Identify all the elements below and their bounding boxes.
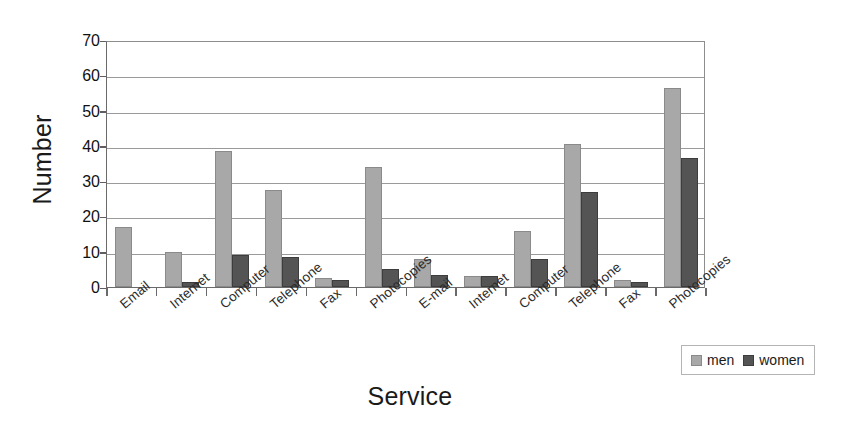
- bar-men: [564, 144, 581, 287]
- x-axis-tick-mark: [406, 288, 408, 296]
- legend-item-women: women: [743, 352, 804, 368]
- x-axis-tick-mark: [156, 288, 158, 296]
- bar-men: [664, 88, 681, 287]
- gridline: [107, 77, 704, 78]
- x-axis-tick-mark: [206, 288, 208, 296]
- bar-men: [115, 227, 132, 287]
- x-axis-tick-mark: [356, 288, 358, 296]
- legend-swatch-women-icon: [743, 355, 754, 366]
- legend-label-men: men: [707, 352, 734, 368]
- x-axis-tick-mark: [705, 288, 707, 296]
- legend-item-men: men: [691, 352, 734, 368]
- gridline: [107, 254, 704, 255]
- x-axis-tick-mark: [455, 288, 457, 296]
- bar-men: [165, 252, 182, 287]
- bar-chart: Number 706050403020100 EmailInternetComp…: [0, 0, 842, 434]
- y-axis-tick-marks: [0, 41, 120, 288]
- bar-men: [315, 278, 332, 287]
- bar-women: [581, 192, 598, 287]
- legend-label-women: women: [759, 352, 804, 368]
- x-axis-tick-mark: [655, 288, 657, 296]
- gridline: [107, 113, 704, 114]
- x-axis-tick-mark: [555, 288, 557, 296]
- x-axis-tick-mark: [256, 288, 258, 296]
- x-axis-tick-mark: [106, 288, 108, 296]
- bar-men: [514, 231, 531, 287]
- x-axis-category-label: Fax: [317, 285, 344, 311]
- x-axis-tick-mark: [306, 288, 308, 296]
- bar-men: [365, 167, 382, 287]
- legend: men women: [681, 345, 815, 375]
- legend-swatch-men-icon: [691, 355, 702, 366]
- x-axis-title: Service: [240, 382, 580, 411]
- plot-area: [106, 41, 705, 288]
- x-axis-category-label: Fax: [616, 285, 643, 311]
- gridline: [107, 183, 704, 184]
- x-axis-tick-mark: [505, 288, 507, 296]
- x-axis-tick-mark: [605, 288, 607, 296]
- bar-men: [464, 276, 481, 287]
- bar-men: [215, 151, 232, 287]
- gridline: [107, 218, 704, 219]
- bar-women: [681, 158, 698, 287]
- gridline: [107, 148, 704, 149]
- bar-men: [614, 280, 631, 287]
